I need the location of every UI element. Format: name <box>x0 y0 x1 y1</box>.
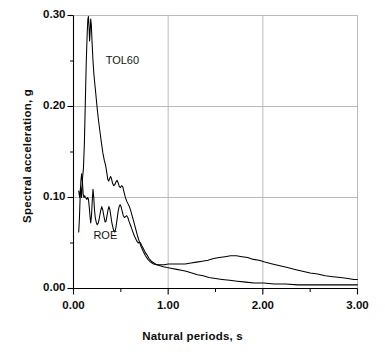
y-tick-label: 0.20 <box>20 99 66 111</box>
y-tick-label: 0.10 <box>20 190 66 202</box>
y-axis-title: Spectral acceleration, g <box>21 56 33 256</box>
y-tick-label: 0.00 <box>20 281 66 293</box>
x-tick-label: 0.00 <box>44 299 104 311</box>
x-tick-label: 2.00 <box>233 299 293 311</box>
x-tick-label: 3.00 <box>328 299 385 311</box>
y-tick-label: 0.30 <box>20 8 66 20</box>
x-axis-title: Natural periods, s <box>0 330 385 342</box>
spectral-acceleration-chart: Spectral acceleration, g Natural periods… <box>0 0 385 354</box>
x-tick-label: 1.00 <box>138 299 198 311</box>
series-label-roe: ROE <box>93 229 117 241</box>
series-label-tol60: TOL60 <box>106 54 139 66</box>
cropped-caption-strip <box>0 344 385 354</box>
